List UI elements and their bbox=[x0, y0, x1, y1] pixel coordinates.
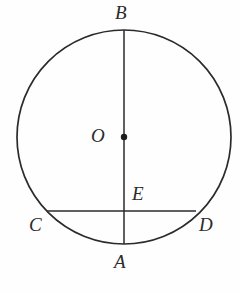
figure-canvas: B O E C D A bbox=[0, 0, 240, 294]
vertex-label-o: O bbox=[91, 126, 105, 145]
vertex-label-a: A bbox=[114, 252, 126, 271]
vertex-label-c: C bbox=[29, 215, 42, 234]
vertex-label-d: D bbox=[199, 215, 213, 234]
circle-diagram bbox=[0, 0, 240, 294]
center-point-dot bbox=[121, 134, 127, 140]
vertex-label-e: E bbox=[132, 184, 144, 203]
vertex-label-b: B bbox=[115, 3, 127, 22]
